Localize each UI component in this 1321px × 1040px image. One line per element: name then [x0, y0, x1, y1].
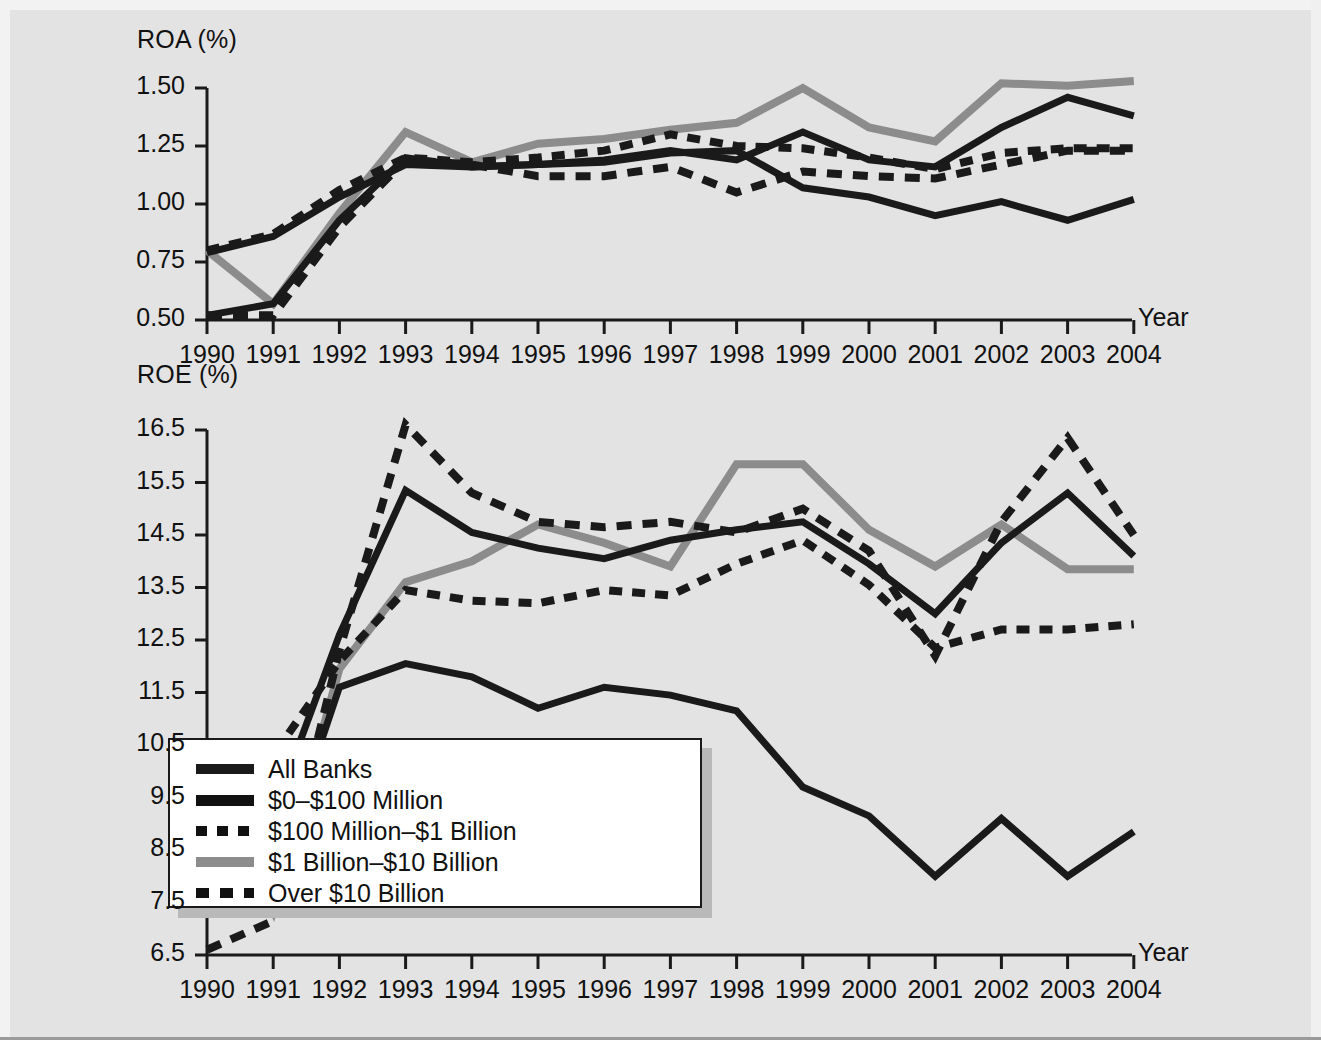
- legend-item[interactable]: $0–$100 Million: [196, 785, 443, 815]
- legend-swatch-dashed-icon: [196, 826, 254, 836]
- roe-y-tick-label: 9.5: [67, 781, 185, 810]
- legend-item[interactable]: Over $10 Billion: [196, 878, 444, 908]
- roa-y-tick-label: 0.50: [67, 303, 185, 332]
- legend-swatch-dashed2-icon: [196, 888, 254, 898]
- legend-item[interactable]: All Banks: [196, 754, 372, 784]
- legend-swatch-solid-black2-icon: [196, 795, 254, 806]
- roe-y-tick-label: 16.5: [67, 413, 185, 442]
- figure-canvas: ROA (%) Year ROE (%) Year All Banks$0–$1…: [0, 0, 1321, 1040]
- legend: All Banks$0–$100 Million$100 Million–$1 …: [168, 738, 702, 908]
- roe-y-tick-label: 14.5: [67, 518, 185, 547]
- legend-swatch-solid-black-icon: [196, 764, 254, 774]
- roe-y-tick-label: 11.5: [67, 676, 185, 705]
- legend-item[interactable]: $1 Billion–$10 Billion: [196, 847, 499, 877]
- roe-y-tick-label: 12.5: [67, 623, 185, 652]
- roa-y-tick-label: 1.50: [67, 71, 185, 100]
- roe-y-tick-label: 15.5: [67, 466, 185, 495]
- roe-y-tick-label: 6.5: [67, 938, 185, 967]
- roa-x-tick-label: 2004: [1094, 340, 1174, 369]
- legend-item-label: All Banks: [268, 755, 372, 784]
- roa-y-tick-label: 0.75: [67, 245, 185, 274]
- legend-item-label: $100 Million–$1 Billion: [268, 817, 517, 846]
- roe-y-tick-label: 8.5: [67, 833, 185, 862]
- roe-x-tick-label: 2004: [1094, 975, 1174, 1004]
- legend-swatch-solid-gray-icon: [196, 857, 254, 867]
- roe-y-tick-label: 7.5: [67, 886, 185, 915]
- roe-y-tick-label: 13.5: [67, 571, 185, 600]
- roa-y-tick-label: 1.00: [67, 187, 185, 216]
- legend-item[interactable]: $100 Million–$1 Billion: [196, 816, 517, 846]
- legend-item-label: $0–$100 Million: [268, 786, 443, 815]
- legend-item-label: Over $10 Billion: [268, 879, 444, 908]
- legend-item-label: $1 Billion–$10 Billion: [268, 848, 499, 877]
- roe-y-tick-label: 10.5: [67, 728, 185, 757]
- roa-y-tick-label: 1.25: [67, 129, 185, 158]
